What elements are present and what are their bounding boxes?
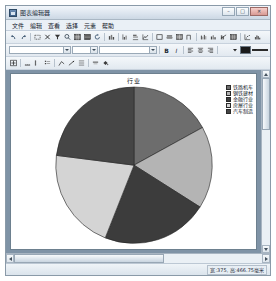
redo-icon[interactable]: [19, 33, 28, 42]
font-size-select[interactable]: [72, 46, 98, 54]
title-icon[interactable]: [91, 59, 100, 68]
legend-label: 金融行业: [233, 97, 253, 102]
align-center-button[interactable]: [196, 46, 205, 55]
menu-select[interactable]: 选择: [63, 21, 81, 30]
zoom-icon[interactable]: [63, 33, 72, 42]
format-toolbar: B I: [6, 44, 270, 57]
menu-file[interactable]: 文件: [9, 21, 27, 30]
refresh-icon[interactable]: [93, 33, 102, 42]
pie-slice[interactable]: [56, 86, 134, 164]
filter-icon[interactable]: [53, 33, 62, 42]
legend-swatch: [226, 97, 231, 102]
canvas-viewport[interactable]: 行业 铁路机车 钢铁建材: [6, 70, 261, 253]
chart-combo-icon[interactable]: [229, 33, 238, 42]
vertical-scroll-track[interactable]: [262, 78, 270, 245]
toolbar-separator: [118, 33, 119, 41]
chart-line-icon[interactable]: [141, 33, 150, 42]
chart-stack-icon[interactable]: [165, 33, 174, 42]
axis-y-icon[interactable]: [33, 59, 42, 68]
chart-area-icon[interactable]: [155, 33, 164, 42]
vertical-scroll-thumb[interactable]: [262, 78, 270, 130]
chevron-down-icon[interactable]: [63, 47, 70, 53]
document-area: 行业 铁路机车 钢铁建材: [6, 70, 270, 253]
scroll-left-button[interactable]: [6, 254, 14, 263]
chart-bar-icon[interactable]: [107, 33, 116, 42]
legend-swatch: [226, 103, 231, 108]
legend-label: 钢铁建材: [233, 91, 253, 96]
title-bar: 图表编辑器 – □ ✕: [6, 6, 270, 20]
toolbar-separator: [104, 33, 105, 41]
chevron-down-icon[interactable]: [230, 46, 239, 55]
legend-item[interactable]: 汽车制造: [226, 108, 253, 114]
chevron-down-icon[interactable]: [149, 47, 156, 53]
chart-step-icon[interactable]: [185, 33, 194, 42]
select-rect-icon[interactable]: [33, 33, 42, 42]
legend-label: 铁路机车: [233, 85, 253, 90]
scroll-down-button[interactable]: [262, 245, 270, 253]
scroll-right-button[interactable]: [262, 254, 270, 263]
window-title: 图表编辑器: [20, 8, 50, 17]
fill-color-swatch[interactable]: [240, 46, 251, 54]
grid-icon[interactable]: [73, 33, 82, 42]
minimize-button[interactable]: –: [222, 7, 235, 16]
horizontal-scroll-track[interactable]: [14, 254, 262, 263]
menu-help[interactable]: 帮助: [99, 21, 117, 30]
align-right-button[interactable]: [206, 46, 215, 55]
style-select[interactable]: [99, 46, 157, 54]
legend-label: 房屋行业: [233, 103, 253, 108]
legend-label: 汽车制造: [233, 109, 253, 114]
menu-view[interactable]: 查看: [45, 21, 63, 30]
font-color-button[interactable]: [220, 46, 229, 55]
window-controls: – □ ✕: [222, 7, 268, 16]
align-left-button[interactable]: [186, 46, 195, 55]
toolbar-separator: [152, 33, 153, 41]
status-dimensions: 宽:375, 高:466.75毫米: [207, 265, 267, 275]
chart-column-icon[interactable]: [121, 33, 130, 42]
chart-bar-h-icon[interactable]: [131, 33, 140, 42]
horizontal-scrollbar[interactable]: [6, 253, 270, 263]
axis-x-icon[interactable]: [23, 59, 32, 68]
cut-icon[interactable]: [43, 33, 52, 42]
vertical-scrollbar[interactable]: [261, 70, 270, 253]
trendline-icon[interactable]: [67, 59, 76, 68]
chart-group-icon[interactable]: [199, 33, 208, 42]
data-label-icon[interactable]: [57, 59, 66, 68]
toolbar-separator: [196, 33, 197, 41]
gridline-icon[interactable]: [77, 59, 86, 68]
toolbar-separator: [217, 46, 218, 54]
scroll-up-button[interactable]: [262, 70, 270, 78]
main-toolbar: [6, 31, 270, 44]
pie-chart[interactable]: [55, 86, 213, 244]
font-family-select[interactable]: [9, 46, 71, 54]
toolbar-separator: [88, 59, 89, 67]
italic-button[interactable]: I: [172, 46, 181, 55]
chart-mixed-icon[interactable]: [209, 33, 218, 42]
maximize-button[interactable]: □: [236, 7, 249, 16]
menu-bar: 文件 编辑 查看 选择 元素 帮助: [6, 20, 270, 31]
chart-page[interactable]: 行业 铁路机车 钢铁建材: [10, 73, 257, 250]
chart-pareto-icon[interactable]: [219, 33, 228, 42]
chart-grid-icon[interactable]: [175, 33, 184, 42]
legend-icon[interactable]: [43, 59, 52, 68]
horizontal-scroll-thumb[interactable]: [14, 254, 164, 263]
menu-element[interactable]: 元素: [81, 21, 99, 30]
toolbar-separator: [20, 59, 21, 67]
bold-button[interactable]: B: [162, 46, 171, 55]
toolbar-separator: [159, 46, 160, 54]
table-icon[interactable]: [83, 33, 92, 42]
chart-plus-icon[interactable]: [9, 59, 18, 68]
elements-toolbar: [6, 57, 270, 70]
chart-legend: 铁路机车 钢铁建材 金融行业 房屋行业: [226, 84, 253, 114]
line-style-picker[interactable]: [252, 46, 268, 54]
chart-hist-icon[interactable]: [253, 33, 262, 42]
close-button[interactable]: ✕: [250, 7, 268, 16]
toolbar-separator: [183, 46, 184, 54]
legend-swatch: [226, 91, 231, 96]
chevron-down-icon[interactable]: [90, 47, 97, 53]
toolbar-separator: [240, 33, 241, 41]
chart-scatter-icon[interactable]: [243, 33, 252, 42]
application-window: 图表编辑器 – □ ✕ 文件 编辑 查看 选择 元素 帮助: [5, 5, 271, 276]
menu-edit[interactable]: 编辑: [27, 21, 45, 30]
undo-icon[interactable]: [9, 33, 18, 42]
fill-bucket-icon[interactable]: [101, 59, 110, 68]
